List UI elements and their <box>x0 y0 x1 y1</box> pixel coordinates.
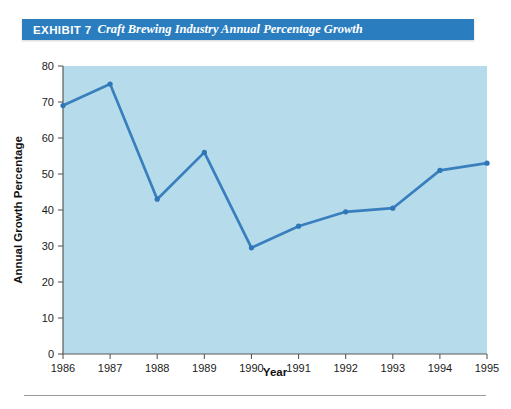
x-tick-label: 1992 <box>333 362 357 374</box>
y-axis-title: Annual Growth Percentage <box>12 136 24 284</box>
y-tick-label: 30 <box>42 240 54 252</box>
y-tick-label: 40 <box>42 204 54 216</box>
y-axis: 80706050403020100 <box>42 60 63 360</box>
data-point-1992 <box>343 209 348 214</box>
y-tick-label: 80 <box>42 60 54 72</box>
data-point-1995 <box>484 161 489 166</box>
page-divider-rule <box>24 395 486 396</box>
chart-figure: 80706050403020100 1986198719881989199019… <box>0 48 511 378</box>
data-point-1993 <box>390 206 395 211</box>
exhibit-banner: EXHIBIT 7 Craft Brewing Industry Annual … <box>22 19 474 40</box>
y-tick-label: 70 <box>42 96 54 108</box>
y-tick-label: 60 <box>42 132 54 144</box>
data-point-1989 <box>202 150 207 155</box>
x-tick-label: 1990 <box>239 362 263 374</box>
exhibit-label: EXHIBIT 7 <box>22 24 92 36</box>
x-tick-label: 1986 <box>51 362 75 374</box>
y-tick-label: 50 <box>42 168 54 180</box>
data-point-1994 <box>437 168 442 173</box>
x-axis-title: Year <box>263 366 288 378</box>
x-tick-label: 1988 <box>145 362 169 374</box>
data-point-1986 <box>60 103 65 108</box>
data-point-1991 <box>296 224 301 229</box>
x-tick-label: 1993 <box>381 362 405 374</box>
data-point-1987 <box>108 81 113 86</box>
exhibit-title: Craft Brewing Industry Annual Percentage… <box>92 22 363 37</box>
line-chart: 80706050403020100 1986198719881989199019… <box>0 48 511 378</box>
x-tick-label: 1991 <box>286 362 310 374</box>
y-tick-label: 10 <box>42 312 54 324</box>
y-tick-label: 0 <box>48 348 54 360</box>
data-point-1988 <box>155 197 160 202</box>
x-tick-label: 1995 <box>475 362 499 374</box>
data-point-1990 <box>249 245 254 250</box>
x-tick-label: 1987 <box>98 362 122 374</box>
plot-area-background <box>63 66 487 354</box>
y-tick-label: 20 <box>42 276 54 288</box>
x-tick-label: 1989 <box>192 362 216 374</box>
x-tick-label: 1994 <box>428 362 452 374</box>
